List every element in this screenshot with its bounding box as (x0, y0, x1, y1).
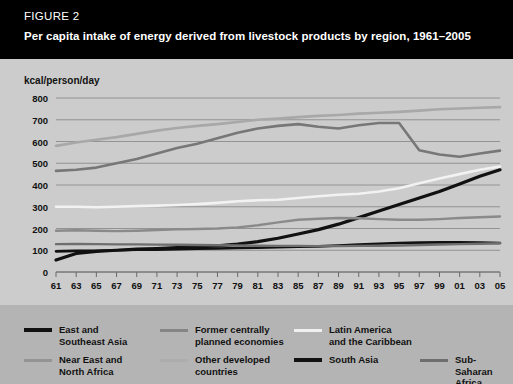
x-tick-label: 85 (287, 280, 309, 291)
legend-color-swatch (420, 359, 448, 362)
figure-title-bar: FIGURE 2 Per capita intake of energy der… (0, 0, 513, 59)
chart-panel: kcal/person/day 010020030040050060070080… (0, 59, 513, 305)
x-tick-label: 61 (45, 280, 67, 291)
x-tick-label: 87 (307, 280, 329, 291)
x-tick-label: 67 (106, 280, 128, 291)
legend-color-swatch (160, 359, 188, 362)
x-tick-label: 01 (449, 280, 471, 291)
y-tick-label: 100 (8, 245, 48, 256)
legend-item: Other developed countries (160, 354, 270, 377)
y-tick-label: 0 (8, 267, 48, 278)
figure-title: Per capita intake of energy derived from… (24, 27, 513, 45)
legend-item-label: Former centrally planned economies (195, 324, 284, 347)
legend-item-label: Other developed countries (195, 354, 270, 377)
x-tick-label: 73 (166, 280, 188, 291)
x-tick-label: 63 (65, 280, 87, 291)
x-tick-label: 05 (489, 280, 511, 291)
legend-item: East and Southeast Asia (24, 324, 127, 347)
x-tick-label: 91 (348, 280, 370, 291)
legend-item-label: Near East and North Africa (59, 354, 122, 377)
x-tick-label: 69 (126, 280, 148, 291)
chart-legend: East and Southeast AsiaFormer centrally … (0, 312, 513, 384)
legend-item-label: South Asia (329, 354, 378, 366)
legend-color-swatch (160, 329, 188, 332)
y-tick-label: 700 (8, 114, 48, 125)
legend-item-label: Latin America and the Caribbean (329, 324, 412, 347)
y-tick-label: 600 (8, 136, 48, 147)
x-tick-label: 77 (206, 280, 228, 291)
x-tick-label: 81 (247, 280, 269, 291)
series-line-sub-saharan-africa (56, 243, 500, 246)
x-tick-label: 03 (469, 280, 491, 291)
legend-color-swatch (24, 328, 52, 332)
x-tick-label: 99 (428, 280, 450, 291)
y-tick-label: 800 (8, 93, 48, 104)
y-tick-label: 400 (8, 180, 48, 191)
legend-item: Near East and North Africa (24, 354, 122, 377)
legend-color-swatch (294, 329, 322, 332)
figure-page: FIGURE 2 Per capita intake of energy der… (0, 0, 513, 384)
x-tick-label: 95 (388, 280, 410, 291)
legend-item: Former centrally planned economies (160, 324, 284, 347)
x-tick-label: 79 (227, 280, 249, 291)
legend-color-swatch (24, 359, 52, 362)
legend-color-swatch (294, 358, 322, 362)
figure-number: FIGURE 2 (24, 8, 513, 24)
x-tick-label: 65 (85, 280, 107, 291)
legend-item-label: East and Southeast Asia (59, 324, 127, 347)
y-tick-label: 200 (8, 223, 48, 234)
x-tick-label: 83 (267, 280, 289, 291)
legend-item-label: Sub-Saharan Africa (455, 354, 513, 384)
legend-item: South Asia (294, 354, 378, 366)
y-tick-label: 300 (8, 201, 48, 212)
legend-item: Latin America and the Caribbean (294, 324, 412, 347)
plot-area: 0100200300400500600700800 61636567697173… (0, 59, 513, 305)
series-line-latin-america-and-the-caribbean (56, 167, 500, 208)
x-tick-label: 89 (328, 280, 350, 291)
y-tick-label: 500 (8, 158, 48, 169)
x-tick-label: 75 (186, 280, 208, 291)
x-tick-label: 97 (408, 280, 430, 291)
line-chart-svg (0, 59, 513, 305)
x-tick-label: 93 (368, 280, 390, 291)
x-tick-label: 71 (146, 280, 168, 291)
legend-item: Sub-Saharan Africa (420, 354, 513, 384)
